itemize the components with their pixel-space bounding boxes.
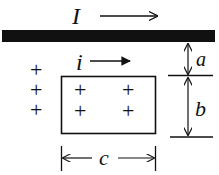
- field-symbol: +: [30, 97, 42, 122]
- straight-wire: [2, 30, 215, 42]
- field-symbol: +: [122, 98, 134, 123]
- wire-loop-diagram: I i + + + + + + + a b c: [0, 0, 219, 175]
- loop-current-label: i: [76, 49, 83, 75]
- dimension-a-label: a: [196, 48, 206, 70]
- wire-current-label: I: [71, 3, 81, 29]
- dimension-c-label: c: [99, 145, 109, 170]
- field-symbol: +: [74, 98, 86, 123]
- dimension-b-label: b: [195, 96, 206, 121]
